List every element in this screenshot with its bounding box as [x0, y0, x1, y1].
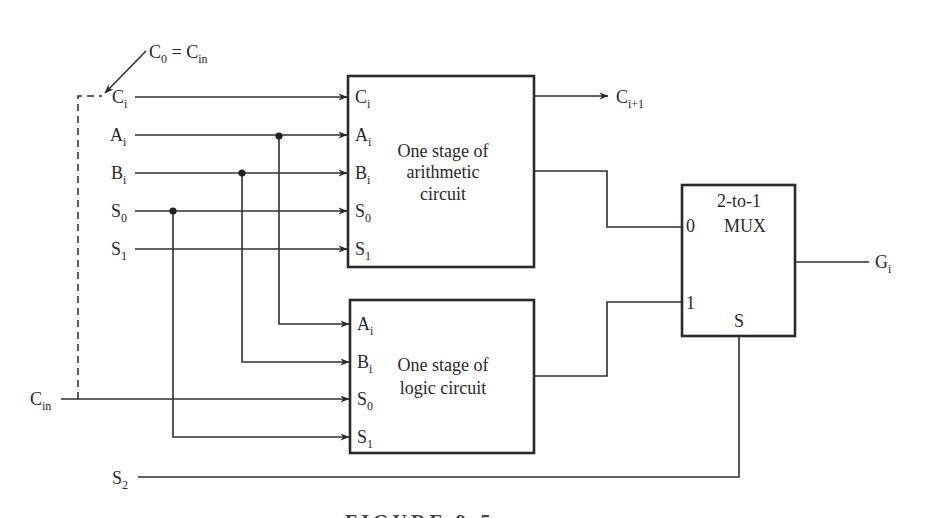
- svg-text:C0 = Cin: C0 = Cin: [149, 42, 208, 66]
- junction-dot-s0: [169, 207, 176, 214]
- input-s0-label: S0: [111, 201, 127, 225]
- wire-bi-branch: [242, 173, 349, 362]
- mux-select-label: S: [734, 311, 744, 331]
- input-ai-label: Ai: [110, 125, 127, 149]
- logic-title-line-1: One stage of: [398, 355, 489, 375]
- input-ci-label: Ci: [112, 87, 128, 111]
- mux-block: 2-to-1 MUX 0 1 S: [682, 185, 795, 336]
- arithmetic-logic-unit-diagram: C0 = Cin Ci Ai Bi S0 S1 Cin S2 Ci Ai Bi …: [0, 0, 926, 518]
- input-s2-label: S2: [112, 468, 128, 492]
- arithmetic-title-line-1: One stage of: [398, 141, 489, 161]
- figure-caption-clipped: FIGURE 9-5: [345, 512, 535, 518]
- mux-input-0-label: 0: [686, 216, 695, 236]
- input-cin-label: Cin: [30, 389, 51, 413]
- input-s1-label: S1: [111, 239, 127, 263]
- input-labels: Ci Ai Bi S0 S1 Cin S2: [30, 87, 128, 492]
- arithmetic-title-line-2: arithmetic: [407, 162, 480, 182]
- logic-title-line-2: logic circuit: [400, 378, 486, 398]
- arithmetic-title-line-3: circuit: [420, 184, 466, 204]
- arithmetic-circuit-block: Ci Ai Bi S0 S1 One stage of arithmetic c…: [348, 76, 534, 267]
- wire-arith-to-mux: [535, 171, 681, 227]
- junction-dot-bi: [238, 169, 245, 176]
- mux-title-line-2: MUX: [724, 216, 766, 236]
- carry-out-label: Ci+1: [616, 87, 644, 111]
- carry-annotation: C0 = Cin: [105, 42, 208, 93]
- logic-circuit-block: Ai Bi S0 S1 One stage of logic circuit: [350, 300, 534, 453]
- output-gi-label: Gi: [875, 252, 892, 276]
- input-bi-label: Bi: [111, 163, 127, 187]
- wire-logic-to-mux: [535, 302, 681, 376]
- mux-input-1-label: 1: [686, 293, 695, 313]
- junction-dot-ai: [275, 132, 282, 139]
- wire-ai-branch: [279, 136, 349, 324]
- dashed-carry-link: [78, 96, 102, 399]
- mux-title-line-1: 2-to-1: [717, 191, 761, 211]
